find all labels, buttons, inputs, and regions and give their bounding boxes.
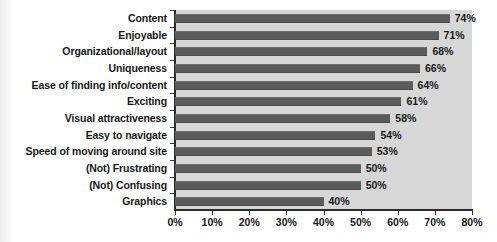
- y-axis-tick: [170, 10, 174, 11]
- bar-value-label: 64%: [418, 78, 439, 92]
- category-label: Organizational/layout: [62, 46, 167, 57]
- bar: [175, 31, 439, 40]
- y-axis-tick: [170, 143, 174, 144]
- x-axis-tick-label: 0%: [167, 216, 182, 228]
- bar-value-label: 58%: [395, 111, 416, 125]
- bar: [175, 81, 413, 90]
- x-axis-tick-label: 60%: [387, 216, 408, 228]
- category-label: Easy to navigate: [86, 130, 167, 141]
- category-label: (Not) Frustrating: [86, 163, 167, 174]
- y-axis-tick: [170, 193, 174, 194]
- bar-row: 66%: [175, 60, 472, 77]
- bar-value-label: 53%: [377, 144, 398, 158]
- bar-row: 50%: [175, 160, 472, 177]
- bar-value-label: 50%: [366, 178, 387, 192]
- y-axis-tick: [170, 177, 174, 178]
- x-axis-tick-label: 10%: [202, 216, 223, 228]
- bar-value-label: 74%: [455, 11, 476, 25]
- bar-row: 53%: [175, 143, 472, 160]
- category-label: Graphics: [122, 196, 167, 207]
- x-axis-tick-label: 80%: [461, 216, 482, 228]
- bar-value-label: 40%: [329, 194, 350, 208]
- bar: [175, 114, 390, 123]
- x-axis-tick-label: 30%: [276, 216, 297, 228]
- y-axis-tick: [170, 27, 174, 28]
- y-axis-tick: [170, 93, 174, 94]
- bar-value-label: 61%: [406, 94, 427, 108]
- category-label: Ease of finding info/content: [32, 80, 167, 91]
- category-label: (Not) Confusing: [89, 180, 167, 191]
- bar-value-label: 71%: [444, 28, 465, 42]
- bar-row: 58%: [175, 110, 472, 127]
- x-axis-tick: [472, 211, 473, 215]
- bar: [175, 47, 427, 56]
- bar-row: 71%: [175, 27, 472, 44]
- x-axis-tick: [435, 211, 436, 215]
- x-axis-tick-label: 40%: [313, 216, 334, 228]
- x-axis-tick-label: 70%: [424, 216, 445, 228]
- category-label: Uniqueness: [108, 63, 167, 74]
- y-axis-tick: [170, 60, 174, 61]
- category-label: Content: [128, 13, 167, 24]
- x-axis-tick: [286, 211, 287, 215]
- y-axis-tick: [170, 127, 174, 128]
- bar: [175, 97, 401, 106]
- y-axis-tick: [170, 43, 174, 44]
- x-axis-tick: [212, 211, 213, 215]
- x-axis-tick: [249, 211, 250, 215]
- bar: [175, 147, 372, 156]
- category-label: Exciting: [127, 96, 167, 107]
- bar: [175, 164, 361, 173]
- x-axis-tick-label: 20%: [239, 216, 260, 228]
- bar-value-label: 54%: [380, 128, 401, 142]
- bar: [175, 14, 450, 23]
- bar-row: 64%: [175, 77, 472, 94]
- bar-row: 68%: [175, 43, 472, 60]
- x-axis-tick: [175, 211, 176, 215]
- horizontal-bar-chart: ContentEnjoyableOrganizational/layoutUni…: [0, 0, 497, 242]
- category-label: Visual attractiveness: [65, 113, 167, 124]
- bar-row: 40%: [175, 193, 472, 210]
- category-label: Enjoyable: [118, 30, 167, 41]
- bar: [175, 131, 375, 140]
- bar-row: 54%: [175, 127, 472, 144]
- x-axis-tick: [324, 211, 325, 215]
- y-axis-tick: [170, 160, 174, 161]
- bar-value-label: 50%: [366, 161, 387, 175]
- y-axis-tick: [170, 110, 174, 111]
- bar-row: 74%: [175, 10, 472, 27]
- bar: [175, 64, 420, 73]
- bar-value-label: 66%: [425, 61, 446, 75]
- bar-value-label: 68%: [432, 44, 453, 58]
- x-axis-tick: [398, 211, 399, 215]
- x-axis-tick-label: 50%: [350, 216, 371, 228]
- category-label: Speed of moving around site: [26, 146, 167, 157]
- y-axis-tick: [170, 77, 174, 78]
- bar-row: 50%: [175, 177, 472, 194]
- bar: [175, 197, 324, 206]
- bar: [175, 181, 361, 190]
- x-axis-tick: [361, 211, 362, 215]
- bar-row: 61%: [175, 93, 472, 110]
- category-axis-labels: ContentEnjoyableOrganizational/layoutUni…: [0, 10, 171, 210]
